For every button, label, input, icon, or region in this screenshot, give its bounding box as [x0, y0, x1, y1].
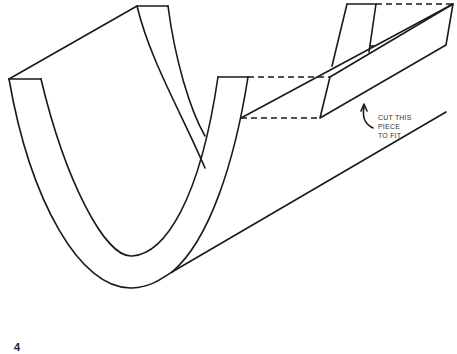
page-number: 4: [14, 341, 21, 353]
arrow-line: [363, 106, 373, 128]
annotation-line-3: TO FIT: [378, 132, 402, 139]
bottom-surface-edge: [172, 112, 446, 272]
gutter-diagram: CUT THIS PIECE TO FIT 4: [0, 0, 457, 354]
annotation-line-2: PIECE: [378, 123, 400, 130]
upright-left: [332, 4, 347, 66]
trough-top-edge: [9, 6, 168, 79]
top-surface-edge: [241, 4, 453, 118]
upright-piece: [347, 4, 376, 52]
far-outer-curve: [168, 6, 205, 136]
extension-piece: [320, 4, 453, 118]
annotation-line-1: CUT THIS: [378, 114, 412, 121]
right-outer-curve: [172, 77, 248, 272]
outer-curve: [9, 79, 172, 288]
